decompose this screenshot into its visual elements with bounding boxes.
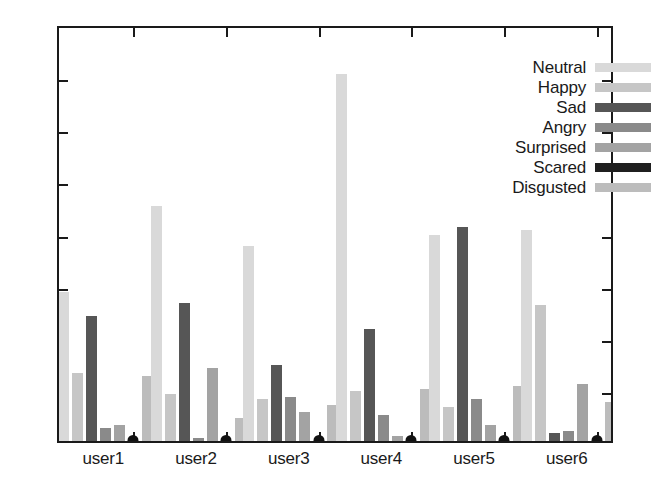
bar-user1-sad: [86, 316, 97, 441]
zero-marker-user1-scared: [128, 435, 139, 441]
x-axis-label-user1: user1: [83, 449, 125, 469]
bar-user6-neutral: [521, 230, 532, 441]
bar-user4-surprised: [392, 436, 403, 441]
legend-swatch-neutral: [595, 63, 651, 72]
legend-swatch-angry: [595, 123, 651, 132]
bar-user1-angry: [100, 428, 111, 441]
legend-swatch-scared: [595, 163, 651, 172]
plot-area: NeutralHappySadAngrySurprisedScaredDisgu…: [57, 26, 613, 443]
zero-marker-user5-scared: [499, 435, 510, 441]
x-axis-label-user5: user5: [453, 449, 495, 469]
bar-user4-neutral: [336, 74, 347, 441]
legend-label-neutral: Neutral: [533, 58, 586, 77]
chart-legend: NeutralHappySadAngrySurprisedScaredDisgu…: [461, 58, 651, 198]
bar-user1-surprised: [114, 425, 125, 441]
bar-user2-happy: [165, 394, 176, 441]
x-axis-label-user4: user4: [361, 449, 403, 469]
bar-user2-sad: [179, 303, 190, 441]
bar-user5-sad: [457, 227, 468, 441]
bar-user6-angry: [563, 431, 574, 441]
bar-user2-angry: [193, 438, 204, 441]
bar-user3-neutral: [243, 246, 254, 441]
bar-user6-disgusted: [605, 402, 611, 441]
legend-swatch-sad: [595, 103, 651, 112]
legend-swatch-happy: [595, 83, 651, 92]
legend-swatch-surprised: [595, 143, 651, 152]
bar-user3-happy: [257, 399, 268, 441]
bar-user4-sad: [364, 329, 375, 441]
x-axis-tick-labels: user1user2user3user4user5user6: [57, 449, 613, 479]
legend-label-happy: Happy: [538, 78, 586, 97]
zero-marker-user3-scared: [313, 435, 324, 441]
bar-user1-neutral: [59, 292, 69, 441]
bar-user2-neutral: [151, 206, 162, 441]
legend-item-disgusted[interactable]: Disgusted: [461, 178, 651, 197]
legend-item-angry[interactable]: Angry: [461, 118, 651, 137]
legend-item-scared[interactable]: Scared: [461, 158, 651, 177]
x-axis-label-user3: user3: [268, 449, 310, 469]
bar-user4-angry: [378, 415, 389, 441]
bar-user6-surprised: [577, 384, 588, 441]
legend-item-surprised[interactable]: Surprised: [461, 138, 651, 157]
zero-marker-user2-scared: [221, 435, 232, 441]
legend-label-sad: Sad: [556, 98, 586, 117]
bar-user3-angry: [285, 397, 296, 441]
zero-marker-user4-scared: [406, 435, 417, 441]
bar-user3-surprised: [299, 412, 310, 441]
legend-item-neutral[interactable]: Neutral: [461, 58, 651, 77]
bar-user4-happy: [350, 391, 361, 441]
legend-item-sad[interactable]: Sad: [461, 98, 651, 117]
bar-user2-surprised: [207, 368, 218, 441]
x-axis-label-user6: user6: [546, 449, 588, 469]
x-axis-label-user2: user2: [175, 449, 217, 469]
bar-user3-sad: [271, 365, 282, 441]
bar-user5-surprised: [485, 425, 496, 441]
zero-marker-user6-scared: [591, 435, 602, 441]
bar-user1-happy: [72, 373, 83, 441]
bar-user6-sad: [549, 433, 560, 441]
legend-label-scared: Scared: [533, 158, 586, 177]
bar-user5-neutral: [429, 235, 440, 441]
legend-label-disgusted: Disgusted: [512, 178, 586, 197]
bar-user5-happy: [443, 407, 454, 441]
legend-item-happy[interactable]: Happy: [461, 78, 651, 97]
legend-swatch-disgusted: [595, 183, 651, 192]
bar-user5-angry: [471, 399, 482, 441]
bar-user6-happy: [535, 305, 546, 441]
legend-label-surprised: Surprised: [515, 138, 586, 157]
legend-label-angry: Angry: [543, 118, 586, 137]
